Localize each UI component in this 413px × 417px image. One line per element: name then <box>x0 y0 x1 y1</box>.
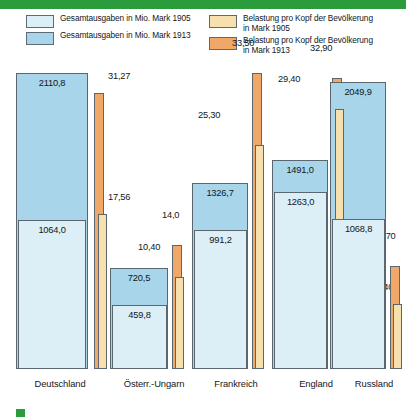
legend-item-percap-1905: Belastung pro Kopf der Bevölkerung in Ma… <box>209 14 373 33</box>
legend-swatch-percap-1905 <box>209 15 237 28</box>
legend-label-percap-1905: Belastung pro Kopf der Bevölkerung in Ma… <box>243 14 373 33</box>
legend-label-percap-1913: Belastung pro Kopf der Bevölkerung in Ma… <box>243 36 373 55</box>
bottom-green-marker <box>16 409 25 417</box>
legend-swatch-total-1913 <box>26 32 54 45</box>
label-percap-1913-frankreich: 33,50 <box>232 38 254 48</box>
bar-total-1905-russland-value: 1068,8 <box>333 224 384 234</box>
bar-total-1905-england: 1263,0 <box>274 192 327 369</box>
category-label-deutschland: Deutschland <box>10 378 110 389</box>
label-percap-1905-frankreich: 25,30 <box>198 110 220 120</box>
legend-swatch-total-1905 <box>26 15 54 28</box>
label-percap-1913-england: 32,90 <box>310 43 332 53</box>
chart-legend: Gesamtausgaben in Mio. Mark 1905 Gesamta… <box>0 14 413 56</box>
bar-total-1913-frankreich-value: 1326,7 <box>193 188 247 198</box>
legend-label-total-1913: Gesamtausgaben in Mio. Mark 1913 <box>60 31 191 41</box>
bar-total-1905-sterr-ungarn: 459,8 <box>112 305 167 369</box>
legend-item-total-1905: Gesamtausgaben in Mio. Mark 1905 <box>26 14 191 28</box>
chart-plot-area: 2110,81064,031,2717,56Deutschland720,545… <box>0 56 413 393</box>
bar-total-1905-frankreich-value: 991,2 <box>195 235 246 245</box>
bar-total-1905-deutschland-value: 1064,0 <box>19 225 85 235</box>
bar-percap-1905-frankreich <box>255 145 264 369</box>
legend-item-total-1913: Gesamtausgaben in Mio. Mark 1913 <box>26 31 191 45</box>
label-percap-1905-england: 29,40 <box>278 74 300 84</box>
legend-label-total-1905: Gesamtausgaben in Mio. Mark 1905 <box>60 14 191 24</box>
bar-total-1913-england-value: 1491,0 <box>273 165 327 175</box>
label-percap-1913-sterr-ungarn: 14,0 <box>162 210 179 220</box>
bar-total-1913-sterr-ungarn-value: 720,5 <box>111 273 167 283</box>
bar-total-1905-russland: 1068,8 <box>332 219 385 369</box>
bar-percap-1905-deutschland <box>98 214 107 369</box>
bar-total-1913-russland-value: 2049,9 <box>331 87 385 97</box>
top-green-rule <box>0 0 406 9</box>
bar-percap-1905-sterr-ungarn <box>175 277 184 369</box>
bar-total-1905-deutschland: 1064,0 <box>18 220 86 369</box>
label-percap-1905-sterr-ungarn: 10,40 <box>138 242 160 252</box>
bar-group-deutschland: 2110,81064,031,2717,56Deutschland <box>16 56 116 369</box>
bar-total-1905-frankreich: 991,2 <box>194 230 247 369</box>
bar-total-1905-england-value: 1263,0 <box>275 197 326 207</box>
bar-total-1905-sterr-ungarn-value: 459,8 <box>113 310 166 320</box>
bar-total-1913-deutschland-value: 2110,8 <box>17 78 87 88</box>
category-label-russland: Russland <box>324 378 413 389</box>
bar-percap-1905-russland <box>393 304 402 369</box>
